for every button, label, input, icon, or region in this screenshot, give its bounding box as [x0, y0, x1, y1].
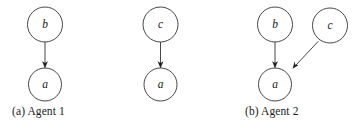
edge-c-to-a — [293, 41, 319, 68]
edge-b-to-a — [272, 42, 278, 69]
edge-b-to-a — [42, 42, 48, 69]
node-b: b — [258, 7, 293, 42]
panel-agent-2: c a (b) Agent 2 — [118, 0, 236, 136]
node-b-label: b — [272, 18, 278, 30]
node-c-label: c — [327, 19, 332, 31]
node-a-label: a — [42, 78, 48, 90]
node-b: b — [28, 7, 63, 42]
caption-agent-1: (a) Agent 1 — [12, 104, 120, 118]
node-a: a — [144, 68, 177, 101]
node-a: a — [259, 68, 292, 101]
edge-c-to-a — [158, 42, 164, 69]
graph-updated: b c a — [245, 0, 364, 104]
panel-updated-graph: b c a (c) Updated graph — [245, 0, 364, 136]
panel-agent-1: b a (a) Agent 1 — [0, 0, 120, 136]
node-c: c — [313, 8, 348, 43]
node-a-label: a — [272, 78, 278, 90]
node-c: c — [143, 7, 178, 42]
figure-root: b a (a) Agent 1 c a — [0, 0, 364, 136]
node-c-label: c — [158, 18, 163, 30]
node-a: a — [29, 68, 62, 101]
node-a-label: a — [158, 78, 164, 90]
node-b-label: b — [42, 18, 48, 30]
graph-agent-1: b a — [0, 0, 120, 104]
graph-agent-2: c a — [118, 0, 236, 104]
